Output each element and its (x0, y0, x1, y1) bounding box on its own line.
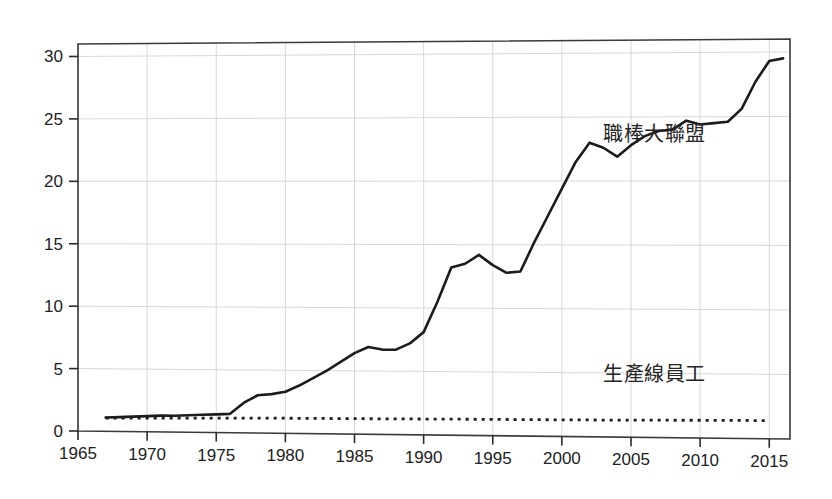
series-annotations: 職棒大聯盟生產線員工 (603, 122, 706, 385)
y-tick-label: 0 (54, 422, 63, 441)
grid-line-horizontal (78, 116, 790, 118)
x-tick-label: 1995 (474, 449, 512, 468)
y-tick-label: 25 (44, 110, 63, 129)
x-tick-label: 1965 (59, 444, 97, 463)
y-tick-label: 20 (44, 172, 63, 191)
x-tick-label: 1990 (405, 448, 443, 467)
x-tick-label: 2010 (681, 451, 719, 470)
series-line-2 (106, 418, 770, 421)
x-tick-label: 2015 (750, 452, 788, 471)
y-axis-tick-labels: 051015202530 (44, 47, 63, 441)
grid-line-horizontal (78, 52, 790, 57)
grid-line-horizontal (78, 244, 790, 246)
series-label-2: 生產線員工 (603, 362, 706, 386)
y-tick-label: 10 (44, 297, 63, 316)
chart-figure: 1965197019751980198519901995200020052010… (0, 0, 832, 499)
y-tick-label: 30 (44, 47, 63, 66)
series-label-1: 職棒大聯盟 (603, 122, 706, 146)
y-tick-label: 5 (54, 360, 63, 379)
x-tick-label: 1975 (197, 446, 235, 465)
y-tick-label: 15 (44, 235, 63, 254)
x-tick-label: 1970 (128, 445, 166, 464)
x-tick-label: 2005 (612, 450, 650, 469)
x-axis-tick-labels: 1965197019751980198519901995200020052010… (59, 444, 788, 471)
x-tick-label: 2000 (543, 449, 581, 468)
chart-canvas: 1965197019751980198519901995200020052010… (0, 0, 832, 499)
axis-ticks (69, 56, 769, 447)
x-tick-label: 1980 (266, 446, 304, 465)
x-tick-label: 1985 (336, 447, 374, 466)
